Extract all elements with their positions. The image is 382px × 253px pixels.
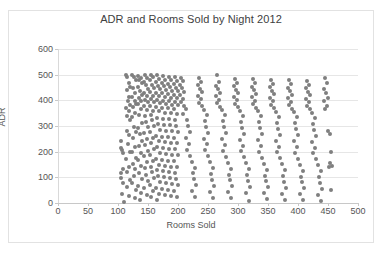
scatter-point (293, 121, 297, 125)
scatter-point (148, 104, 152, 108)
scatter-point (119, 139, 123, 143)
x-axis-title: Rooms Sold (0, 220, 382, 230)
scatter-point (280, 192, 284, 196)
scatter-point (136, 158, 140, 162)
scatter-point (254, 92, 258, 96)
scatter-point (142, 131, 146, 135)
scatter-point (208, 190, 212, 194)
scatter-point (186, 124, 190, 128)
x-tick-mark (208, 203, 209, 206)
scatter-point (292, 110, 296, 114)
scatter-point (173, 118, 177, 122)
scatter-point (169, 111, 173, 115)
scatter-point (329, 150, 333, 154)
scatter-point (142, 186, 146, 190)
scatter-point (302, 186, 306, 190)
scatter-point (184, 107, 188, 111)
scatter-point (166, 106, 170, 110)
scatter-point (289, 82, 293, 86)
y-tick-label: 100 (19, 172, 53, 182)
scatter-point (284, 186, 288, 190)
scatter-point (145, 137, 149, 141)
scatter-point (228, 178, 232, 182)
scatter-point (211, 166, 215, 170)
scatter-point (161, 146, 165, 150)
scatter-point (322, 99, 326, 103)
scatter-point (229, 196, 233, 200)
scatter-point (172, 189, 176, 193)
scatter-point (173, 171, 177, 175)
scatter-point (283, 168, 287, 172)
scatter-point (223, 113, 227, 117)
scatter-point (160, 135, 164, 139)
scatter-point (133, 145, 137, 149)
scatter-point (175, 112, 179, 116)
scatter-point (323, 107, 327, 111)
scatter-point (170, 129, 174, 133)
scatter-point (328, 132, 332, 136)
scatter-point (167, 147, 171, 151)
scatter-point (172, 107, 176, 111)
scatter-point (239, 149, 243, 153)
scatter-point (316, 163, 320, 167)
y-axis-title: ADR (0, 107, 7, 126)
scatter-point (266, 185, 270, 189)
scatter-point (190, 189, 194, 193)
scatter-point (202, 108, 206, 112)
scatter-point (263, 174, 267, 178)
scatter-point (131, 162, 135, 166)
scatter-point (119, 171, 123, 175)
scatter-point (299, 175, 303, 179)
scatter-point (162, 175, 166, 179)
scatter-point (230, 184, 234, 188)
scatter-point (149, 165, 153, 169)
scatter-point (224, 155, 228, 159)
scatter-point (131, 105, 135, 109)
scatter-point (295, 115, 299, 119)
scatter-point (205, 113, 209, 117)
scatter-point (158, 151, 162, 155)
scatter-point (314, 157, 318, 161)
scatter-point (260, 156, 264, 160)
scatter-point (142, 104, 146, 108)
scatter-point (176, 183, 180, 187)
scatter-point (125, 170, 129, 174)
scatter-point (296, 133, 300, 137)
x-tick-mark (298, 203, 299, 206)
scatter-point (131, 136, 135, 140)
scatter-point (157, 109, 161, 113)
scatter-point (217, 80, 221, 84)
scatter-point (121, 151, 125, 155)
x-tick-mark (358, 203, 359, 206)
scatter-point (318, 181, 322, 185)
scatter-point (215, 73, 219, 77)
scatter-point (200, 90, 204, 94)
scatter-point (134, 188, 138, 192)
scatter-point (184, 136, 188, 140)
scatter-point (265, 197, 269, 201)
scatter-point (169, 194, 173, 198)
scatter-point (229, 167, 233, 171)
scatter-point (259, 114, 263, 118)
scatter-point (133, 91, 137, 95)
scatter-point (253, 81, 257, 85)
scatter-point (168, 176, 172, 180)
scatter-point (295, 145, 299, 149)
scatter-point (172, 159, 176, 163)
scatter-point (317, 175, 321, 179)
scatter-point (313, 146, 317, 150)
scatter-point (247, 199, 251, 203)
scatter-point (307, 83, 311, 87)
scatter-point (227, 173, 231, 177)
scatter-point (146, 125, 150, 129)
x-tick-mark (238, 203, 239, 206)
scatter-point (293, 151, 297, 155)
scatter-point (136, 126, 140, 130)
scatter-point (130, 150, 134, 154)
scatter-point (222, 125, 226, 129)
scatter-point (170, 182, 174, 186)
scatter-point (210, 178, 214, 182)
scatter-point (140, 177, 144, 181)
scatter-point (161, 117, 165, 121)
scatter-point (166, 159, 170, 163)
